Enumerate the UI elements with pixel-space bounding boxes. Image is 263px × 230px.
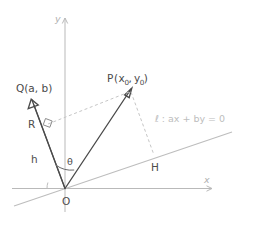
label-point-r: R bbox=[28, 118, 35, 130]
vector-op-group bbox=[65, 88, 132, 188]
label-origin: O bbox=[62, 195, 70, 207]
dashed-p-to-h bbox=[131, 92, 154, 155]
line-ell bbox=[14, 132, 232, 206]
line-ell-group bbox=[14, 132, 232, 206]
label-point-p-close: ) bbox=[144, 72, 148, 84]
label-angle-theta: θ bbox=[67, 156, 73, 167]
origin-angle-arc bbox=[47, 183, 48, 189]
dashed-p-to-r bbox=[48, 92, 129, 124]
x-axis-group bbox=[12, 186, 212, 191]
label-segment-h: h bbox=[31, 153, 38, 165]
label-point-p-open: ( bbox=[114, 72, 118, 84]
vector-oq bbox=[32, 100, 65, 189]
label-point-p-name: P bbox=[107, 72, 113, 84]
label-axis-x: x bbox=[203, 174, 210, 185]
label-point-p: P ( x 0 , y 0 ) bbox=[107, 72, 148, 87]
label-point-p-comma: , bbox=[129, 72, 132, 84]
label-axis-y: y bbox=[54, 13, 61, 24]
label-line-ell: ℓ : ax + by = 0 bbox=[155, 113, 225, 124]
geometry-figure: Q(a, b) P ( x 0 , y 0 ) R h θ H O y x ℓ … bbox=[0, 0, 263, 230]
label-point-q: Q(a, b) bbox=[16, 82, 52, 94]
label-point-h: H bbox=[151, 161, 159, 173]
vector-oq-group bbox=[28, 99, 65, 188]
geometry-diagram-canvas: Q(a, b) P ( x 0 , y 0 ) R h θ H O y x ℓ … bbox=[0, 0, 263, 230]
vector-op bbox=[65, 89, 131, 189]
